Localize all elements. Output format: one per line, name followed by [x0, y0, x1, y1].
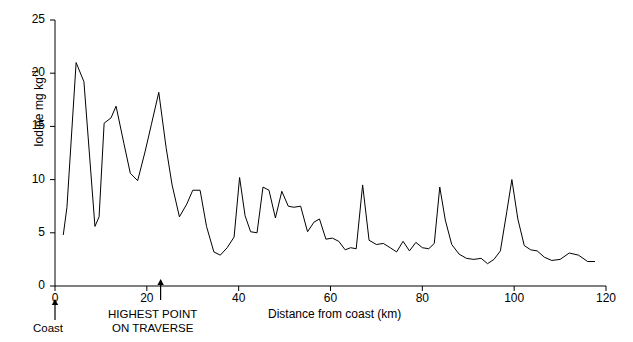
highest-point-line-1: HIGHEST POINT	[108, 307, 197, 321]
y-axis-title: Iodine mg kg-1	[30, 18, 46, 198]
x-axis-tick-label: 0	[40, 291, 70, 305]
highest-point-line-2: ON TRAVERSE	[108, 321, 197, 335]
y-axis-title-superscript: -1	[30, 69, 40, 77]
x-axis-tick-label: 60	[316, 291, 346, 305]
y-axis-tick-label: 5	[19, 225, 45, 239]
data-series-group	[63, 63, 595, 264]
x-axis-tick-label: 80	[407, 291, 437, 305]
x-axis-tick-label: 40	[224, 291, 254, 305]
x-axis-title: Distance from coast (km)	[268, 307, 401, 321]
y-axis-tick-label: 0	[19, 278, 45, 292]
iodine-data-line	[63, 63, 595, 264]
highest-point-annotation-label: HIGHEST POINT ON TRAVERSE	[108, 307, 197, 335]
y-axis-ticks	[50, 20, 55, 286]
iodine-distance-line-chart: 0510152025 020406080100120 Iodine mg kg-…	[0, 0, 633, 342]
x-axis-tick-label: 100	[499, 291, 529, 305]
chart-axes	[50, 20, 606, 291]
x-axis-tick-label: 20	[132, 291, 162, 305]
highest-point-arrow-head	[157, 279, 163, 285]
coast-annotation-label: Coast	[33, 322, 63, 334]
y-axis-title-text: Iodine mg kg	[32, 77, 46, 147]
x-axis-tick-label: 120	[591, 291, 621, 305]
